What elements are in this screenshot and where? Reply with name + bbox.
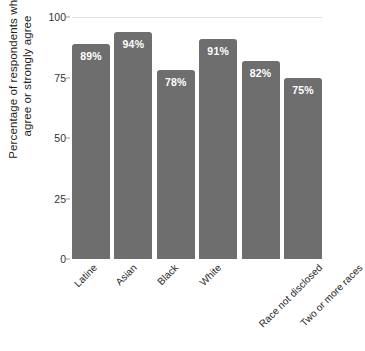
bar-value-race-not-disclosed: 82% [242,67,280,79]
plot-area: 89% 94% 78% 91% 82% [72,17,322,259]
bar-slot-race-not-disclosed: 82% [242,17,280,259]
x-tick-label-latine: Latine [72,262,99,289]
y-tick-label-75: 75 [26,72,66,84]
x-tick-label-white: White [197,262,223,288]
x-tick-label-asian: Asian [113,262,138,287]
bar-asian[interactable]: 94% [114,32,152,259]
bar-white[interactable]: 91% [199,39,237,259]
x-tick-label-black: Black [155,262,180,287]
y-tickmark-0 [66,259,70,260]
bar-latine[interactable]: 89% [72,44,110,259]
bar-slot-asian: 94% [114,17,152,259]
y-tickmark-50 [66,138,70,139]
y-tickmark-75 [66,77,70,78]
y-tick-label-25: 25 [26,193,66,205]
bar-slot-black: 78% [157,17,195,259]
y-tickmark-25 [66,198,70,199]
y-tick-label-100: 100 [26,11,66,23]
bar-value-two-or-more-races: 75% [284,84,322,96]
x-axis-tick-labels: Latine Asian Black White Race not disclo… [72,262,322,351]
bar-race-not-disclosed[interactable]: 82% [242,61,280,259]
y-tickmark-100 [66,17,70,18]
bar-value-latine: 89% [72,50,110,62]
y-axis-tick-labels: 100 75 50 25 0 [24,17,66,259]
bar-series: 89% 94% 78% 91% 82% [72,17,322,259]
bar-black[interactable]: 78% [157,70,195,259]
bar-value-asian: 94% [114,38,152,50]
y-tick-label-50: 50 [26,132,66,144]
bar-slot-two-or-more-races: 75% [284,17,322,259]
bar-slot-latine: 89% [72,17,110,259]
bar-two-or-more-races[interactable]: 75% [284,78,322,260]
bar-slot-white: 91% [199,17,237,259]
bar-value-white: 91% [199,45,237,57]
y-tick-label-0: 0 [26,253,66,265]
bar-value-black: 78% [157,76,195,88]
